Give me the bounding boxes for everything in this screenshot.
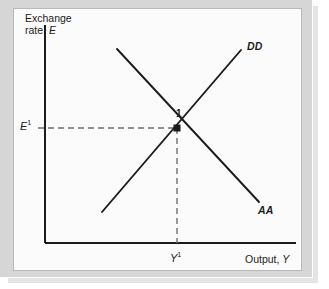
dd-curve xyxy=(102,50,241,212)
y-axis-title-symbol: E xyxy=(49,24,56,36)
dd-curve-label: DD xyxy=(247,40,263,52)
equilibrium-point-marker xyxy=(174,125,181,132)
x-axis-title-text: Output, xyxy=(245,253,282,265)
x-axis-title-symbol: Y xyxy=(282,253,289,265)
x-tick-label-y1: Y1 xyxy=(170,252,181,265)
y-axis-title: Exchange rate, E xyxy=(25,12,72,37)
x-axis-title: Output, Y xyxy=(245,253,289,265)
aa-curve xyxy=(117,49,259,202)
figure-root: Exchange rate, E Output, Y E1 Y1 DD AA 1 xyxy=(0,0,329,289)
y-tick-label-e1: E1 xyxy=(20,120,31,133)
x-tick-superscript: 1 xyxy=(177,250,181,259)
plot-canvas xyxy=(0,0,329,289)
y-axis-title-line2: rate, xyxy=(25,24,49,36)
equilibrium-point-label: 1 xyxy=(176,108,182,120)
y-tick-superscript: 1 xyxy=(27,118,31,127)
aa-curve-label: AA xyxy=(258,204,274,216)
y-axis-title-line1: Exchange xyxy=(25,12,72,24)
